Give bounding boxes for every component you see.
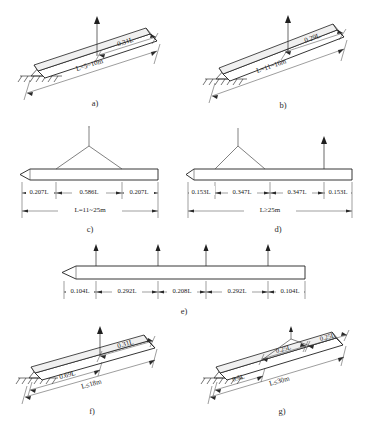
lifting-point-diagram: 0.31L L=5~10m a) <box>0 0 373 427</box>
lift-arrow-d <box>321 136 327 169</box>
panel-label-b: b) <box>279 100 286 110</box>
dim-label: 0.104L <box>281 287 300 294</box>
panel-label-f: f) <box>89 406 95 416</box>
dimension-chain-d: 0.153L 0.347L 0.347L 0.153L <box>188 182 352 199</box>
panel-label-c: c) <box>87 224 94 234</box>
beam-c <box>20 169 158 180</box>
dim-label: 0.104L <box>71 287 90 294</box>
dim-label: 0.153L <box>329 188 348 195</box>
panel-c: 0.207L 0.586L 0.207L L=11~25m c) <box>20 126 158 234</box>
dim-label: 0.292L <box>228 287 247 294</box>
beam-d <box>186 169 352 180</box>
panel-a: 0.31L L=5~10m a) <box>18 16 160 108</box>
dim-label: 0.347L <box>233 188 252 195</box>
dimension-d-span: L≥25m <box>188 199 352 218</box>
dim-label: 0.347L <box>288 188 307 195</box>
panel-label-g: g) <box>278 406 285 416</box>
dimension-chain-c: 0.207L 0.586L 0.207L <box>22 182 158 199</box>
span-label: L≥25m <box>260 206 281 214</box>
dim-label: 0.207L <box>130 188 149 195</box>
span-label: L≤30m <box>268 374 291 388</box>
dim-label: 0.586L <box>80 188 99 195</box>
span-label: L=11~25m <box>74 206 106 214</box>
panel-label-d: d) <box>274 224 281 234</box>
lift-arrows-e <box>94 244 271 266</box>
dim-label: 0.208L <box>173 287 192 294</box>
panel-e: 0.104L 0.292L 0.208L 0.292L 0.104L e) <box>62 244 305 316</box>
panel-d: 0.153L 0.347L 0.347L 0.153L L≥25m d) <box>186 128 352 234</box>
panel-f: 0.31L 0.69L L≤18m f) <box>16 326 157 416</box>
panel-label-a: a) <box>92 98 99 108</box>
dim-label: 0.292L <box>118 287 137 294</box>
panel-g: 0.25L 0.25L 0.5L L≤30m g) <box>201 326 349 416</box>
span-label: L≤18m <box>80 377 103 391</box>
sling-c <box>56 126 122 169</box>
dim-label: 0.207L <box>30 188 49 195</box>
beam-f <box>31 335 155 380</box>
beam-a <box>34 28 157 78</box>
dim-label: 0.153L <box>192 188 211 195</box>
beam-b <box>219 24 344 81</box>
panel-b: 0.29L L=11~16m b) <box>203 15 347 110</box>
beam-e <box>62 266 305 279</box>
panel-label-e: e) <box>181 306 188 316</box>
sling-d <box>215 128 265 169</box>
dimension-c-span: L=11~25m <box>22 199 158 218</box>
dimension-chain-e: 0.104L 0.292L 0.208L 0.292L 0.104L <box>64 281 305 299</box>
